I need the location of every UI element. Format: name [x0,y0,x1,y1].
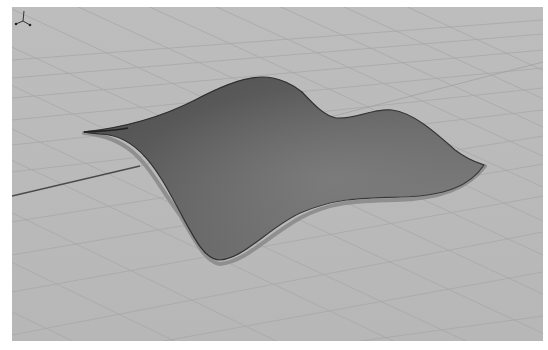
xyz-axes-icon [12,7,34,29]
scene-canvas[interactable] [12,7,543,341]
3d-viewport[interactable] [12,7,543,341]
